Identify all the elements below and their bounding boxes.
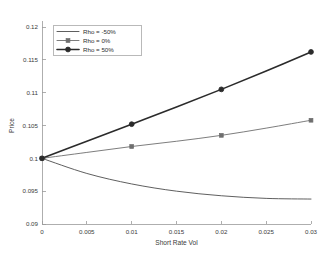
- figure-canvas: 0.090.0950.10.1050.110.1150.1200.0050.01…: [0, 0, 325, 258]
- y-tick-label: 0.115: [23, 56, 39, 63]
- x-tick-label: 0.03: [305, 228, 318, 235]
- legend-label-0: Rho = -50%: [83, 28, 116, 35]
- data-series-group: [42, 52, 311, 199]
- x-tick-label: 0.015: [169, 228, 185, 235]
- series-marker-2: [40, 156, 45, 161]
- legend-marker-2: [66, 47, 71, 52]
- legend-label-2: Rho = 50%: [83, 46, 114, 53]
- series-marker-2: [309, 50, 314, 55]
- y-tick-label: 0.095: [23, 187, 39, 194]
- series-marker-1: [130, 145, 134, 149]
- x-tick-label: 0.02: [215, 228, 228, 235]
- chart-legend[interactable]: Rho = -50%Rho = 0%Rho = 50%: [53, 25, 141, 55]
- series-line-2: [42, 52, 311, 158]
- series-line-1: [42, 120, 311, 158]
- y-axis-title: Price: [8, 118, 15, 133]
- series-line-0: [42, 158, 311, 199]
- y-tick-label: 0.12: [26, 23, 39, 30]
- y-tick-label: 0.1: [29, 155, 38, 162]
- y-tick-label: 0.11: [26, 89, 38, 96]
- series-marker-1: [219, 133, 223, 137]
- legend-label-1: Rho = 0%: [83, 37, 111, 44]
- series-marker-2: [129, 122, 134, 127]
- y-tick-label: 0.09: [26, 220, 39, 227]
- x-tick-label: 0.01: [126, 228, 139, 235]
- series-marker-1: [309, 118, 313, 122]
- series-marker-2: [219, 87, 224, 92]
- x-tick-label: 0: [40, 228, 44, 235]
- legend-marker-1: [66, 39, 70, 43]
- y-tick-label: 0.105: [23, 122, 39, 129]
- chart-plot-area[interactable]: 0.090.0950.10.1050.110.1150.1200.0050.01…: [0, 0, 325, 258]
- x-axis-title: Short Rate Vol: [155, 239, 198, 246]
- x-tick-label: 0.025: [258, 228, 274, 235]
- x-tick-label: 0.005: [79, 228, 95, 235]
